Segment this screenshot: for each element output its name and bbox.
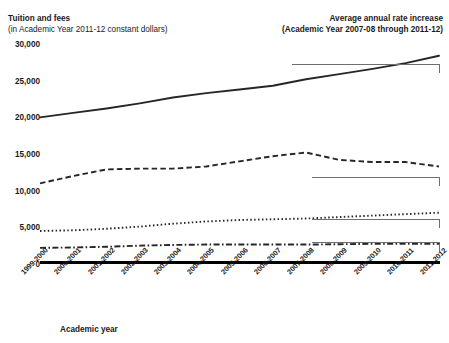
x-axis-tick-2002-2003: 2002-2003: [119, 246, 150, 277]
x-axis-title: Academic year: [60, 325, 118, 334]
annotation-rule: [312, 242, 439, 243]
x-axis-tick-2007-2008: 2007-2008: [285, 246, 316, 277]
annotation-end-cap: [439, 219, 440, 228]
x-axis-tick-2011-2012: 2011-2012: [418, 246, 448, 276]
x-axis-tick-2008-2009: 2008-2009: [318, 246, 349, 277]
x-axis-tick-2010-2011: 2010-2011: [385, 246, 415, 276]
x-axis-tick-2006-2007: 2006-2007: [252, 246, 283, 277]
x-axis-tick-2000-2001: 2000-2001: [52, 246, 83, 277]
x-axis-tick-2009-2010: 2009-2010: [352, 246, 383, 277]
annotation-rule: [292, 64, 439, 65]
annotation-rule: [312, 219, 439, 220]
x-axis-tick-2003-2004: 2003-2004: [152, 246, 183, 277]
annotation-end-cap: [439, 242, 440, 251]
x-axis-tick-2004-2005: 2004-2005: [185, 246, 216, 277]
annotation-end-cap: [439, 177, 440, 186]
annotation-end-cap: [439, 64, 440, 73]
annotation-rule: [312, 177, 439, 178]
x-axis-tick-2005-2006: 2005-2006: [219, 246, 250, 277]
x-axis-tick-1999-2000: 1999-2000: [19, 246, 50, 277]
x-axis-tick-2001-2002: 2001-2002: [86, 246, 117, 277]
x-axis-labels: 1999-20002000-20012001-20022002-20032003…: [0, 0, 449, 343]
tuition-and-fees-chart: Tuition and fees (in Academic Year 2011-…: [0, 0, 449, 343]
